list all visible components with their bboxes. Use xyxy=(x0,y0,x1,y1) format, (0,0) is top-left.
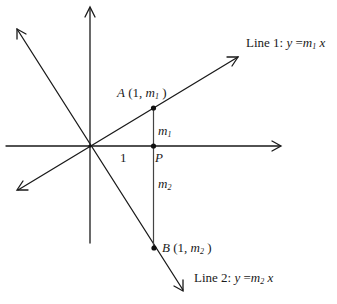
segment-label-m2: m2 xyxy=(158,177,171,192)
line-2-var-x: x xyxy=(264,270,273,285)
line-1-coef: m xyxy=(303,35,312,50)
line-2-eq: = xyxy=(240,270,251,285)
point-a-coords-open: (1, xyxy=(125,85,146,100)
line-2-coef: m xyxy=(251,270,260,285)
point-a-coords-close: ) xyxy=(159,85,167,100)
line-1-var-x: x xyxy=(316,35,325,50)
line-2-label: Line 2: y =m2 x xyxy=(194,271,273,286)
line-1-label-prefix: Line 1: xyxy=(246,35,286,50)
point-a-dot xyxy=(151,105,156,110)
y-axis xyxy=(85,7,95,243)
point-p-label: P xyxy=(155,151,163,164)
point-a-coord-var: m xyxy=(146,85,155,100)
point-b-name: B xyxy=(162,240,170,255)
segment-label-m1-sub: 1 xyxy=(167,130,171,139)
line-1-arrow-ne-icon xyxy=(227,57,238,66)
segment-label-m1-var: m xyxy=(158,123,167,138)
unit-tick-label: 1 xyxy=(120,151,127,164)
point-b-dot xyxy=(151,245,156,250)
x-axis xyxy=(6,141,281,151)
point-a-name: A xyxy=(117,85,125,100)
line-2-label-prefix: Line 2: xyxy=(194,270,234,285)
line-1 xyxy=(17,57,238,190)
point-a-label: A (1, m1 ) xyxy=(117,86,167,101)
segment-label-m1: m1 xyxy=(158,124,171,139)
point-b-coord-var: m xyxy=(191,240,200,255)
point-b-coords-close: ) xyxy=(204,240,212,255)
point-b-label: B (1, m2 ) xyxy=(162,241,212,256)
line-2-arrow-se-icon xyxy=(174,280,183,291)
point-p-dot xyxy=(151,143,156,148)
line-1-eq: = xyxy=(292,35,303,50)
segment-label-m2-sub: 2 xyxy=(167,183,171,192)
segment-label-m2-var: m xyxy=(158,176,167,191)
point-b-coords-open: (1, xyxy=(170,240,191,255)
line-1-label: Line 1: y =m1 x xyxy=(246,36,325,51)
origin-dot xyxy=(88,144,91,147)
